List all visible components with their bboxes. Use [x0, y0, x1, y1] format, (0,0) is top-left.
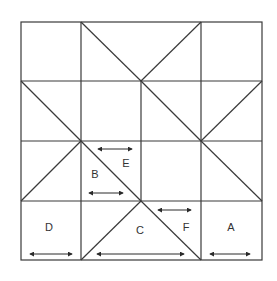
label-a: A: [227, 221, 235, 233]
diagonal: [201, 81, 262, 141]
label-b: B: [91, 168, 98, 180]
diagonal: [81, 22, 141, 81]
label-e: E: [122, 157, 129, 169]
diagonal: [21, 81, 81, 141]
diagonal: [141, 22, 201, 81]
diagonal: [21, 141, 81, 201]
diagonal: [141, 81, 201, 141]
diagonal: [81, 201, 141, 260]
diagonal: [81, 141, 141, 201]
label-c: C: [136, 224, 144, 236]
diagonal: [201, 141, 262, 201]
quilt-block-diagram: E B D C F A: [0, 0, 277, 281]
label-f: F: [183, 221, 190, 233]
label-d: D: [45, 221, 53, 233]
